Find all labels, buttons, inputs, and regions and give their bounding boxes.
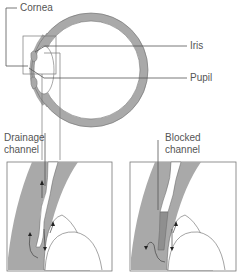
iris-label: Iris [190,40,203,51]
pupil-label: Pupil [190,72,212,83]
iris-leader [35,46,187,52]
drainage-channel-label-line2: channel [4,144,39,155]
drainage-detail-normal [7,162,112,271]
drainage-channel-label-line1: Drainage [4,132,45,143]
blocked-channel-label-line2: channel [165,144,200,155]
cornea-leader [6,8,28,66]
drainage-detail-blocked [130,140,236,271]
cornea-label: Cornea [20,2,53,13]
blocked-channel-label-line1: Blocked [165,132,201,143]
eye-cross-section [31,13,148,127]
eye-diagram: Cornea Iris Pupil Drainage channel Block… [0,0,238,277]
